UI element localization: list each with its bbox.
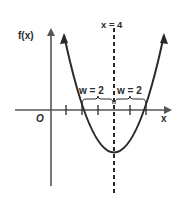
- symmetry-label: x = 4: [101, 19, 123, 30]
- parabola-diagram: f(x) O x x = 4 w = 2 w = 2: [0, 0, 183, 198]
- y-axis-label: f(x): [18, 30, 34, 41]
- origin-label: O: [36, 113, 44, 124]
- right-width-brace: [115, 96, 146, 104]
- left-arrow-tip: [60, 33, 68, 44]
- left-width-label: w = 2: [78, 85, 104, 96]
- right-arrow-tip: [160, 33, 168, 44]
- right-width-label: w = 2: [116, 85, 142, 96]
- left-width-brace: [82, 96, 113, 104]
- x-axis-label: x: [161, 113, 167, 124]
